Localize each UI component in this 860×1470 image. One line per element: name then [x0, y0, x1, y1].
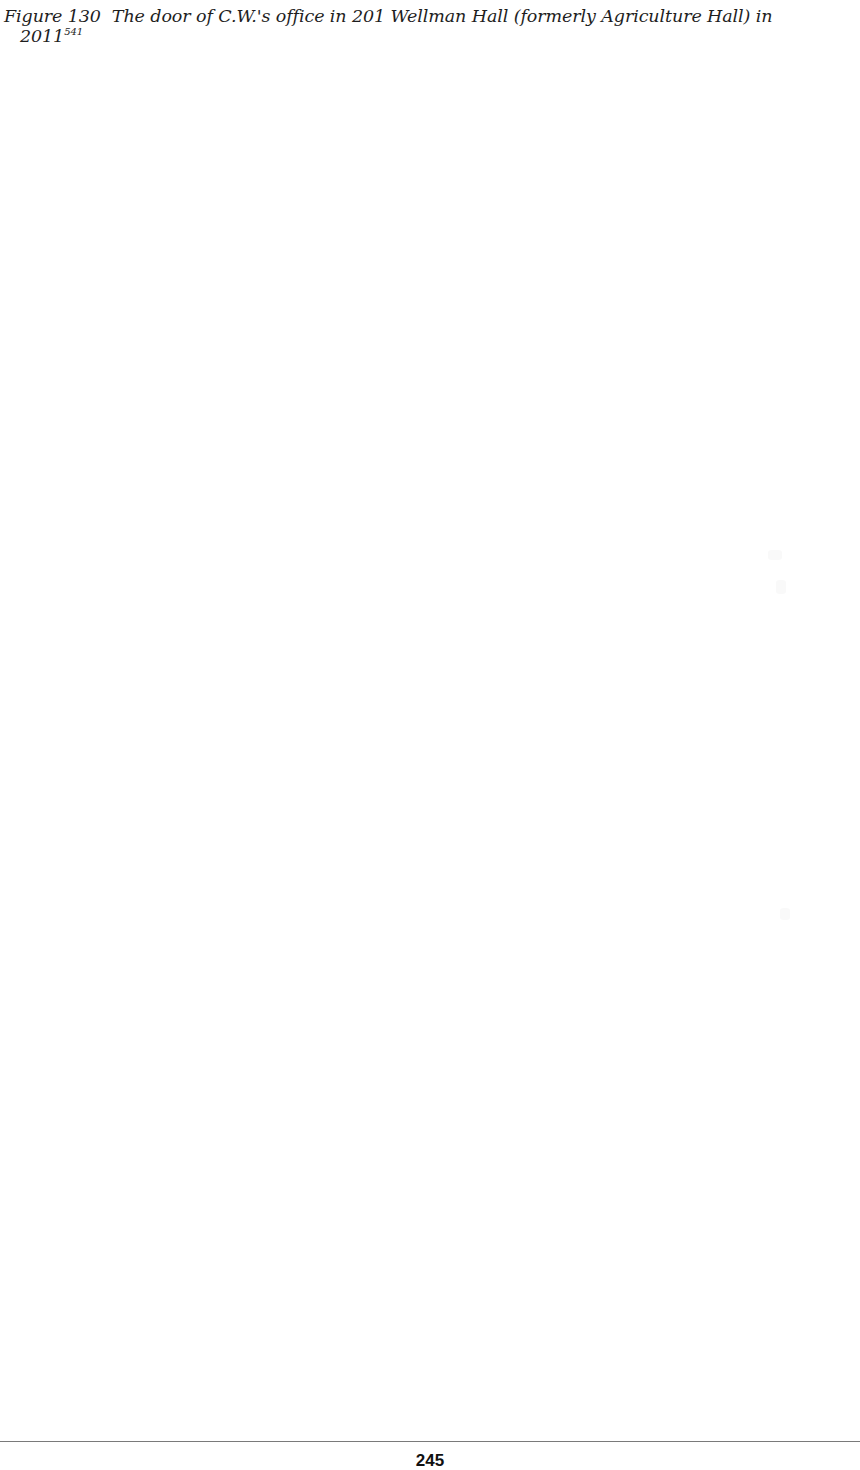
figure-caption-text: The door of C.W.'s office in 201 Wellman…	[112, 6, 773, 26]
figure-label: Figure 130	[4, 6, 101, 26]
figure-image	[0, 50, 860, 1390]
footer-rule	[0, 1441, 860, 1442]
figure-caption-continuation: 2011541	[4, 26, 860, 46]
figure-caption: Figure 130 The door of C.W.'s office in …	[4, 6, 860, 46]
footnote-reference[interactable]: 541	[64, 26, 83, 37]
faint-mark	[768, 550, 782, 560]
faint-mark	[780, 908, 790, 920]
caption-year: 2011	[20, 26, 64, 46]
page-number: 245	[0, 1451, 860, 1470]
faint-mark	[776, 580, 786, 594]
